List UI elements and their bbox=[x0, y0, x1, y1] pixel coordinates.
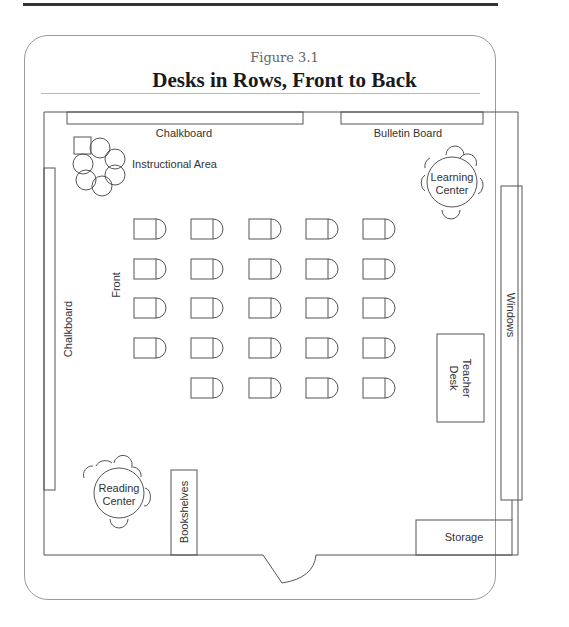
label-reading-center-1: Reading bbox=[99, 482, 140, 494]
label-bulletin-board: Bulletin Board bbox=[374, 127, 443, 139]
label-storage: Storage bbox=[445, 531, 484, 543]
label-reading-center-2: Center bbox=[102, 495, 135, 507]
label-teacher-desk-2: Desk bbox=[448, 365, 460, 391]
label-learning-center-1: Learning bbox=[431, 171, 474, 183]
door-opening bbox=[263, 555, 282, 583]
desk-row-4 bbox=[134, 338, 395, 358]
desk-row-5 bbox=[191, 378, 395, 398]
label-chalkboard-left: Chalkboard bbox=[62, 301, 74, 357]
door-swing bbox=[282, 555, 316, 583]
chalkboard-left bbox=[44, 168, 55, 490]
desk-row-1 bbox=[134, 219, 395, 239]
label-teacher-desk-1: Teacher bbox=[461, 358, 473, 397]
label-front: Front bbox=[110, 272, 122, 298]
classroom-floor-plan: Chalkboard Bulletin Board Instructional … bbox=[0, 0, 569, 627]
desk-row-2 bbox=[134, 259, 395, 279]
bulletin-board bbox=[341, 112, 483, 124]
label-learning-center-2: Center bbox=[435, 184, 468, 196]
label-chalkboard-top: Chalkboard bbox=[156, 127, 212, 139]
desk-row-3 bbox=[134, 298, 395, 318]
label-bookshelves: Bookshelves bbox=[178, 480, 190, 543]
student-desks bbox=[134, 219, 395, 398]
windows bbox=[501, 186, 522, 500]
label-windows: Windows bbox=[505, 293, 517, 338]
label-instructional-area: Instructional Area bbox=[132, 158, 218, 170]
instructional-area bbox=[73, 137, 125, 196]
chalkboard-top bbox=[67, 112, 303, 124]
